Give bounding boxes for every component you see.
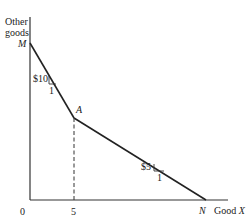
run-label-2: 1 xyxy=(157,172,162,183)
x-tick-label-5: 5 xyxy=(71,206,76,217)
segment-a-n xyxy=(74,118,206,200)
point-n-label: N xyxy=(198,205,207,216)
point-m-label: M xyxy=(17,38,27,49)
y-axis-label-line1: Other xyxy=(5,16,28,27)
y-axis-label-line2: goods xyxy=(5,27,29,38)
point-a-label: A xyxy=(75,104,83,115)
x-axis-label: Good X xyxy=(214,205,246,216)
slope-label-2: $5 xyxy=(141,161,151,172)
origin-label: 0 xyxy=(20,206,25,217)
slope-label-1: $10 xyxy=(33,73,48,84)
budget-diagram: Other goods M A N $10 1 $5 1 0 5 Good X xyxy=(0,0,251,224)
run-label-1: 1 xyxy=(49,85,54,96)
